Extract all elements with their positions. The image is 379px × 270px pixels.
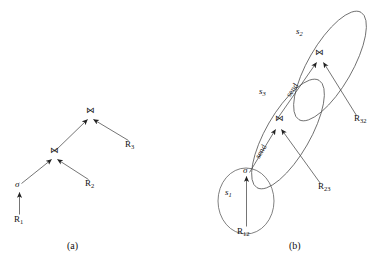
leaf-relation-r3-subscript: 3 (131, 143, 134, 150)
leaf-relation-r2: R2 (85, 179, 94, 188)
leaf-relation-r3: R3 (125, 140, 134, 149)
edge-r32-to-join-s2 (324, 63, 357, 116)
edge-root-to-inner-join (55, 120, 88, 152)
node-select-sigma-b: σ (243, 166, 247, 175)
site-label-s1: s1 (225, 188, 232, 197)
edge-r23-to-join-s3 (282, 130, 321, 184)
leaf-relation-r1-subscript: 1 (20, 218, 23, 225)
site-label-s2: s2 (296, 27, 303, 36)
node-join-symbol-s2: ⋈ (315, 48, 324, 57)
site-label-s3-base: s (259, 86, 263, 96)
relation-r23: R23 (318, 182, 331, 191)
relation-r23-subscript: 23 (324, 185, 331, 192)
edge-root-to-r3 (94, 120, 129, 141)
site-label-s1-subscript: 1 (229, 191, 232, 198)
relation-r32: R32 (354, 114, 367, 123)
node-inner-join-symbol: ⋈ (50, 146, 59, 155)
relation-r32-subscript: 32 (360, 117, 367, 124)
panel-a-tree-edges (20, 120, 129, 215)
edge-inner-join-to-r2 (58, 160, 89, 180)
site-label-s2-subscript: 2 (300, 30, 303, 37)
site-label-s3-subscript: 3 (263, 90, 266, 97)
node-root-join-symbol: ⋈ (86, 106, 95, 115)
figure-vector-layer (0, 0, 379, 270)
node-select-sigma-a: σ (15, 180, 19, 189)
site-label-s3: s3 (259, 87, 266, 96)
relation-r12: R12 (237, 227, 250, 236)
site-label-s1-base: s (225, 187, 229, 197)
site-boundary-s2 (280, 1, 379, 130)
relation-r12-subscript: 12 (243, 230, 250, 237)
site-label-s2-base: s (296, 26, 300, 36)
caption-panel-a: (a) (67, 241, 78, 251)
leaf-relation-r1: R1 (14, 215, 23, 224)
node-join-symbol-s3: ⋈ (275, 114, 284, 123)
figure-container: ⋈ ⋈ σ R1 R2 R3 (a) s1 s3 s2 σ ⋈ ⋈ R12 R2… (0, 0, 379, 270)
site-boundary-s1 (218, 168, 274, 234)
edge-inner-join-to-sigma (22, 160, 52, 184)
caption-panel-b: (b) (289, 241, 301, 251)
leaf-relation-r2-subscript: 2 (91, 182, 94, 189)
